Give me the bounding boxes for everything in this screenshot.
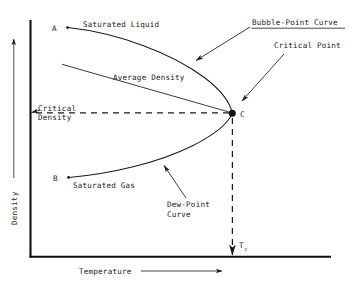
tc-label-base: T <box>239 241 244 250</box>
point-a-group: A <box>52 24 69 33</box>
x-axis-label: Temperature <box>79 267 132 276</box>
bubble-point-curve <box>68 28 232 113</box>
bubble-point-curve-label: Bubble-Point Curve <box>252 18 338 27</box>
point-c-label: C <box>240 110 245 119</box>
point-b-group: B <box>53 174 70 183</box>
diagram-canvas: Density Temperature A B C <box>0 0 354 283</box>
critical-point-dot <box>229 110 236 117</box>
y-axis-label: Density <box>10 191 19 225</box>
dew-point-curve-label-line2: Curve <box>167 210 191 219</box>
tc-label-group: T c <box>239 241 248 252</box>
bubble-point-leader-arrow <box>196 27 250 61</box>
critical-density-label-line1: Critical <box>38 104 76 113</box>
critical-density-label-line2: Density <box>38 113 72 122</box>
dew-point-leader-arrow <box>164 166 186 199</box>
phase-envelope-figure: Density Temperature A B C <box>0 0 354 283</box>
critical-point-label: Critical Point <box>274 41 341 50</box>
saturated-liquid-label: Saturated Liquid <box>83 20 159 29</box>
bubble-point-callout-group: Bubble-Point Curve <box>196 18 345 61</box>
point-a-dot <box>66 26 69 29</box>
y-axis-label-group: Density <box>10 39 19 225</box>
dew-point-callout-group: Dew-Point Curve <box>164 166 210 220</box>
critical-density-label-group: Critical Density <box>38 104 76 122</box>
critical-point-callout-group: Critical Point <box>242 41 341 101</box>
dew-point-curve-label-line1: Dew-Point <box>167 200 210 209</box>
point-a-label: A <box>52 24 57 33</box>
dew-point-curve <box>69 114 232 178</box>
average-density-label: Average Density <box>113 73 185 82</box>
point-b-dot <box>67 176 70 179</box>
point-b-label: B <box>53 174 58 183</box>
saturated-gas-label: Saturated Gas <box>73 181 135 190</box>
x-axis-label-group: Temperature <box>79 267 222 276</box>
plot-axes <box>30 20 332 258</box>
tc-label-subscript: c <box>245 246 248 252</box>
critical-point-leader-arrow <box>242 54 284 101</box>
